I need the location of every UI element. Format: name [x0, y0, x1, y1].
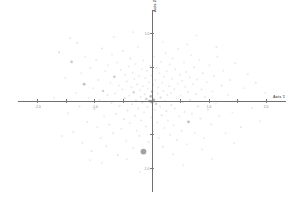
x-axis-title: Axis 1	[273, 95, 285, 99]
scatter-point	[133, 91, 135, 93]
scatter-point	[143, 111, 145, 113]
scatter-point	[192, 83, 194, 85]
scatter-point	[120, 69, 122, 71]
scatter-point	[107, 64, 109, 66]
scatter-point	[112, 132, 114, 134]
scatter-point	[154, 79, 156, 81]
axes-layer	[18, 10, 286, 192]
scatter-point	[122, 50, 124, 52]
scatter-point	[181, 80, 183, 82]
scatter-point	[162, 90, 164, 92]
scatter-point	[195, 93, 197, 95]
scatter-point	[160, 61, 162, 63]
data-points-layer	[53, 31, 267, 173]
scatter-point	[221, 85, 223, 87]
scatter-point	[92, 87, 94, 89]
scatter-point	[156, 67, 158, 69]
scatter-point	[141, 149, 147, 155]
scatter-point	[217, 56, 219, 58]
scatter-point	[76, 42, 78, 44]
scatter-point	[234, 62, 236, 64]
scatter-point	[159, 105, 161, 107]
scatter-point	[145, 98, 147, 100]
scatter-point	[141, 101, 143, 103]
scatter-point	[147, 88, 149, 90]
scatter-point	[75, 92, 77, 94]
scatter-point	[107, 94, 109, 96]
scatter-point	[185, 71, 187, 73]
scatter-point	[69, 37, 71, 39]
scatter-point	[181, 130, 183, 132]
scatter-point	[174, 107, 176, 109]
scatter-point	[80, 72, 82, 74]
scatter-point	[209, 64, 211, 66]
scatter-point	[247, 73, 249, 75]
scatter-point	[231, 111, 233, 113]
scatter-point	[105, 145, 107, 147]
scatter-point	[201, 149, 203, 151]
scatter-point	[138, 135, 140, 137]
scatter-point	[210, 124, 212, 126]
scatter-point	[156, 122, 158, 124]
scatter-point	[163, 76, 165, 78]
scatter-point	[158, 72, 160, 74]
scatter-point	[61, 135, 63, 137]
scatter-point	[64, 77, 66, 79]
scatter-point	[222, 70, 224, 72]
scatter-point	[111, 53, 113, 55]
scatter-point	[182, 164, 184, 166]
scatter-point	[165, 52, 167, 54]
scatter-point	[170, 92, 172, 94]
scatter-point	[173, 88, 175, 90]
scatter-point	[177, 82, 179, 84]
scatter-point	[182, 101, 184, 103]
scatter-point	[142, 60, 144, 62]
scatter-point	[102, 90, 104, 92]
scatter-point	[124, 74, 126, 76]
y-tick-label: 1.0	[145, 32, 150, 36]
scatter-point	[172, 153, 174, 155]
scatter-point	[137, 107, 139, 109]
scatter-point	[139, 171, 141, 173]
scatter-point	[133, 78, 135, 80]
scatter-point	[166, 94, 168, 96]
scatter-point	[213, 75, 215, 77]
scatter-point	[130, 87, 132, 89]
scatter-point	[113, 75, 116, 78]
scatter-point	[172, 58, 174, 60]
scatter-point	[138, 75, 140, 77]
scatter-point	[114, 93, 116, 95]
scatter-point	[158, 137, 160, 139]
scatter-point	[186, 143, 188, 145]
scatter-point	[194, 132, 196, 134]
scatter-point	[70, 61, 73, 64]
x-tick-label: 2.0	[264, 105, 269, 109]
scatter-point	[170, 104, 172, 106]
x-tick-label: 1.0	[207, 105, 212, 109]
scatter-point	[211, 91, 213, 93]
scatter-point	[120, 128, 122, 130]
scatter-point	[72, 131, 74, 133]
scatter-point	[101, 47, 103, 49]
scatter-point	[134, 63, 136, 65]
scatter-point	[164, 127, 166, 129]
scatter-point	[161, 114, 163, 116]
scatter-point	[124, 97, 126, 99]
plot-canvas: -2.0-1.01.02.0-1.01.0 Axis 1 Axis 2	[0, 0, 303, 204]
scatter-point	[104, 70, 106, 72]
scatter-point	[134, 115, 136, 117]
scatter-point	[116, 62, 118, 64]
y-tick-label: -1.0	[143, 167, 149, 171]
scatter-point	[169, 64, 171, 66]
scatter-point	[53, 97, 55, 99]
scatter-point	[171, 78, 173, 80]
scatter-point	[178, 116, 180, 118]
scatter-point	[153, 56, 155, 58]
scatter-point	[126, 80, 128, 82]
scatter-point	[86, 121, 88, 123]
scatter-point	[196, 78, 198, 80]
scatter-point	[176, 139, 178, 141]
scatter-point	[131, 103, 133, 105]
scatter-point	[140, 120, 142, 122]
scatter-point	[169, 134, 171, 136]
